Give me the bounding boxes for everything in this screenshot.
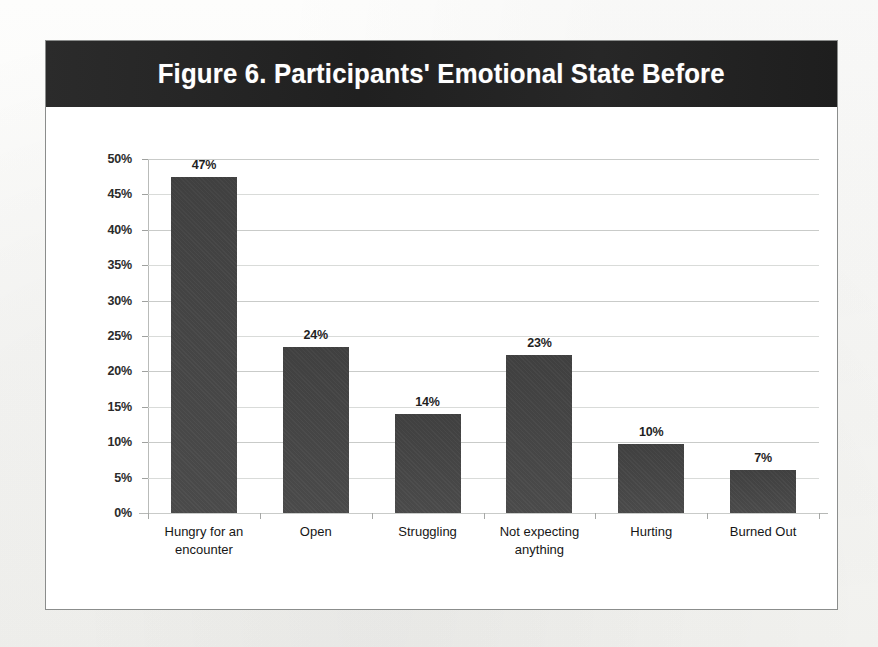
- bar-value-label: 47%: [192, 158, 216, 172]
- bar[interactable]: [506, 355, 572, 513]
- bar-group: 47%: [148, 159, 260, 513]
- bar[interactable]: [171, 177, 237, 513]
- bar-value-label: 10%: [639, 425, 663, 439]
- bar-value-label: 7%: [754, 451, 772, 465]
- x-axis-tick: [819, 513, 820, 519]
- x-axis-label-line: encounter: [124, 541, 284, 559]
- figure-header-bar: Figure 6. Participants' Emotional State …: [46, 41, 837, 107]
- x-axis-tick: [707, 513, 708, 519]
- bar-group: 10%: [595, 159, 707, 513]
- x-axis-tick: [595, 513, 596, 519]
- x-axis-category-label: Burned Out: [683, 523, 843, 541]
- bar-value-label: 24%: [304, 328, 328, 342]
- x-axis-tick: [484, 513, 485, 519]
- bar-group: 23%: [484, 159, 596, 513]
- figure-frame: Figure 6. Participants' Emotional State …: [45, 40, 838, 610]
- x-axis-tick: [260, 513, 261, 519]
- x-axis-label-line: anything: [459, 541, 619, 559]
- bar-group: 7%: [707, 159, 819, 513]
- bar-value-label: 14%: [415, 395, 439, 409]
- bar-group: 14%: [372, 159, 484, 513]
- x-axis-tick: [372, 513, 373, 519]
- bar-group: 24%: [260, 159, 372, 513]
- bar[interactable]: [395, 414, 461, 513]
- plot-area: 47%24%14%23%10%7%: [148, 159, 819, 513]
- y-axis-tick-marks: [46, 159, 156, 513]
- x-axis-tick: [148, 513, 149, 519]
- bar-value-label: 23%: [527, 336, 551, 350]
- bar[interactable]: [283, 347, 349, 513]
- figure-title: Figure 6. Participants' Emotional State …: [158, 58, 725, 90]
- bar[interactable]: [618, 444, 684, 513]
- bar[interactable]: [730, 470, 796, 513]
- x-axis-label-line: Burned Out: [683, 523, 843, 541]
- chart-plot-wrapper: 0%5%10%15%20%25%30%35%40%45%50% 47%24%14…: [46, 107, 837, 609]
